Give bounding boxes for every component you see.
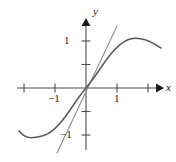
x-tick-label-minus-1: −1 (48, 93, 60, 104)
y-tick-label-1: 1 (64, 35, 70, 46)
x-axis-label: x (166, 82, 171, 93)
plot-canvas (0, 0, 176, 162)
x-tick-label-1: 1 (114, 93, 120, 104)
x-axis-arrowhead (156, 84, 164, 93)
y-tick-label-minus-1: −1 (60, 129, 72, 140)
y-axis-label: y (93, 6, 98, 17)
y-axis-arrowhead (82, 18, 91, 26)
math-figure-sine-with-tangent: y x 1 −1 −1 1 (0, 0, 176, 162)
